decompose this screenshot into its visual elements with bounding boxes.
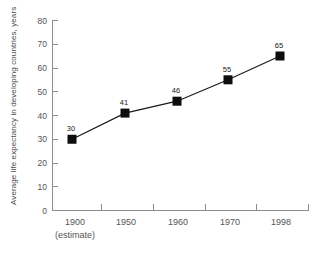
y-tick-label-40: 40 — [38, 111, 48, 121]
x-label-1900: 1900 — [65, 217, 85, 227]
data-label-1950: 41 — [120, 98, 128, 107]
x-label-1960: 1960 — [168, 217, 188, 227]
y-tick-label-20: 20 — [38, 158, 48, 168]
chart-canvas: Average life expectancy in developing co… — [0, 0, 327, 253]
data-point-1900 — [68, 135, 77, 144]
data-label-1900: 30 — [67, 124, 75, 133]
y-tick-label-80: 80 — [38, 16, 48, 26]
data-point-1950 — [121, 109, 130, 118]
x-label-1950: 1950 — [116, 217, 136, 227]
data-label-1960: 46 — [172, 86, 180, 95]
life-expectancy-line-chart: Average life expectancy in developing co… — [0, 0, 327, 253]
y-tick-label-50: 50 — [38, 87, 48, 97]
x-label-1970: 1970 — [220, 217, 240, 227]
y-axis-title: Average life expectancy in developing co… — [9, 7, 18, 205]
data-point-1970 — [224, 75, 233, 84]
data-point-1998 — [276, 52, 285, 61]
data-point-1960 — [173, 97, 182, 106]
y-tick-label-70: 70 — [38, 39, 48, 49]
data-label-1970: 55 — [223, 65, 231, 74]
data-label-1998: 65 — [275, 41, 283, 50]
chart-background — [0, 0, 327, 253]
x-sublabel-estimate: (estimate) — [55, 230, 95, 240]
x-label-1998: 1998 — [271, 217, 291, 227]
y-tick-label-10: 10 — [38, 182, 48, 192]
y-axis-tick-labels: 0 10 20 30 40 50 60 70 80 — [38, 16, 48, 216]
y-tick-label-60: 60 — [38, 63, 48, 73]
y-tick-label-30: 30 — [38, 134, 48, 144]
y-tick-label-0: 0 — [42, 206, 47, 216]
